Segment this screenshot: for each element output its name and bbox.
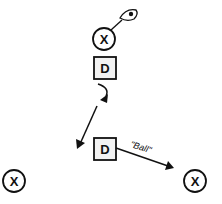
player-label: X [191,174,200,189]
player-label: X [100,32,109,47]
player-label: X [10,174,19,189]
ball-call-label: "Ball" [129,139,153,155]
defender-label: D [100,61,109,76]
defender-label: D [100,142,109,157]
offense-player-left: X [3,170,25,192]
turn-arrow-icon [98,84,108,103]
defender-bottom: D [94,138,116,160]
offense-player-top: X [93,28,115,50]
ball-in-hand-icon [111,10,137,30]
play-diagram: X D D "Ball" X [0,0,222,204]
offense-player-right: X [184,170,206,192]
defender-top: D [94,57,116,79]
